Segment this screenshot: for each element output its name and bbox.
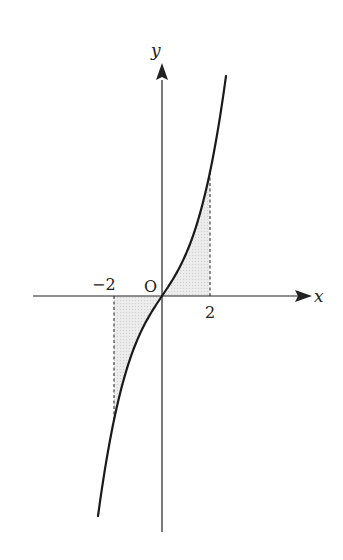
y-axis-arrow-icon — [156, 63, 168, 80]
function-graph: x y O −2 2 — [0, 0, 343, 560]
y-axis-label: y — [150, 40, 161, 60]
tick-label-2: 2 — [205, 303, 215, 322]
shaded-region-right — [162, 172, 210, 296]
x-axis-label: x — [314, 286, 324, 306]
tick-label-neg2: −2 — [92, 275, 116, 294]
origin-label: O — [144, 277, 157, 296]
shaded-region-left — [114, 296, 162, 420]
